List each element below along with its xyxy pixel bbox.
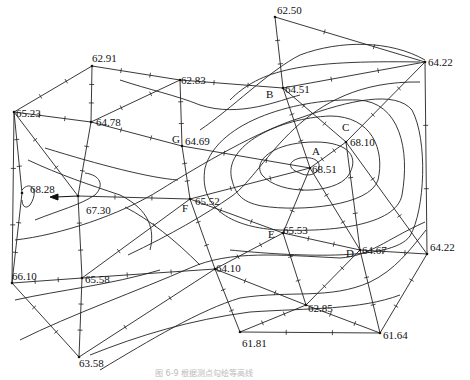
interpolation-tick bbox=[409, 279, 413, 282]
triangulation-edge bbox=[180, 80, 182, 146]
triangulation-edge bbox=[92, 66, 180, 80]
contour-line bbox=[125, 207, 200, 265]
spot-height-marker bbox=[274, 16, 277, 19]
spot-height-label: 63.58 bbox=[79, 357, 104, 369]
interpolation-tick bbox=[353, 213, 358, 214]
interpolation-tick bbox=[341, 221, 345, 224]
spot-height-label: 62.91 bbox=[92, 52, 117, 64]
spot-height-label: 64.78 bbox=[96, 116, 121, 128]
spot-height-label: 66.10 bbox=[12, 270, 37, 282]
interpolation-tick bbox=[117, 249, 120, 253]
triangulation-edge bbox=[79, 278, 82, 357]
spot-height-label: 64.69 bbox=[185, 135, 210, 147]
contour-line bbox=[230, 62, 420, 100]
spot-height-marker bbox=[81, 277, 84, 280]
spot-height-marker bbox=[239, 331, 242, 334]
interpolation-tick bbox=[371, 177, 375, 180]
point-letter-d: D bbox=[346, 247, 354, 259]
interpolation-tick bbox=[39, 94, 42, 98]
interpolation-tick bbox=[333, 149, 336, 153]
spot-height-label: 62.50 bbox=[277, 4, 302, 16]
spot-height-marker bbox=[11, 282, 14, 285]
spot-height-marker bbox=[426, 253, 429, 256]
triangulation-edge bbox=[91, 66, 92, 122]
interpolation-tick bbox=[394, 305, 398, 308]
triangulation-edge bbox=[275, 17, 283, 88]
triangulation-edge bbox=[215, 269, 306, 305]
interpolation-tick bbox=[371, 304, 376, 305]
interpolation-tick bbox=[64, 116, 65, 121]
interpolation-tick bbox=[321, 157, 324, 161]
triangulation-edge bbox=[78, 196, 190, 199]
contour-lines bbox=[15, 44, 426, 370]
spot-height-label: 64.22 bbox=[430, 241, 455, 253]
point-letter-g: G bbox=[172, 133, 180, 145]
point-letter-f: F bbox=[182, 202, 188, 214]
point-letter-b: B bbox=[266, 88, 273, 100]
spot-height-marker bbox=[282, 87, 285, 90]
point-letter-e: E bbox=[268, 228, 275, 240]
interpolation-tick bbox=[397, 214, 401, 217]
spot-height-marker bbox=[305, 304, 308, 307]
spot-height-marker bbox=[77, 195, 80, 198]
spot-height-label: 67.30 bbox=[86, 204, 111, 216]
interpolation-tick bbox=[169, 296, 172, 300]
point-letter-a: A bbox=[312, 145, 320, 157]
triangulation-edge bbox=[240, 332, 380, 333]
triangulation-edge bbox=[14, 66, 92, 112]
contour-line bbox=[15, 99, 423, 255]
interpolation-tick bbox=[324, 194, 328, 197]
spot-height-label: 64.10 bbox=[216, 262, 241, 274]
spot-height-marker bbox=[90, 121, 93, 124]
spot-height-marker bbox=[181, 145, 184, 148]
interpolation-tick bbox=[185, 181, 190, 182]
interpolation-tick bbox=[364, 277, 369, 278]
interpolation-tick bbox=[80, 170, 85, 171]
triangulation-edge bbox=[380, 254, 427, 333]
triangulation-edge bbox=[360, 250, 380, 333]
triangulation-edge bbox=[275, 17, 425, 62]
contour-map-figure: 62.5064.2262.9162.8364.5165.2364.7864.69… bbox=[0, 0, 470, 380]
interpolation-tick bbox=[182, 163, 187, 164]
spot-height-label: 65.52 bbox=[195, 195, 220, 207]
spot-height-label: 62.85 bbox=[308, 302, 333, 314]
arrow-shaft bbox=[56, 196, 78, 197]
interpolation-tick bbox=[378, 68, 379, 73]
triangulation-edges bbox=[10, 17, 429, 357]
triangulation-edge bbox=[240, 305, 306, 332]
interpolation-tick bbox=[331, 77, 332, 82]
spot-height-marker bbox=[309, 167, 312, 170]
interpolation-tick bbox=[308, 236, 309, 241]
contour-line bbox=[260, 142, 353, 190]
triangulation-edge bbox=[78, 122, 91, 196]
spot-height-label: 61.81 bbox=[242, 337, 267, 349]
triangulation-edge bbox=[12, 112, 14, 283]
figure-caption: 图 6-9 根据测点勾绘等高线 bbox=[155, 368, 253, 378]
interpolation-tick bbox=[224, 151, 225, 156]
triangulation-edge bbox=[14, 112, 22, 193]
spot-height-marker bbox=[345, 141, 348, 144]
interpolation-tick bbox=[84, 146, 89, 147]
interpolation-tick bbox=[278, 64, 283, 65]
point-letter-c: C bbox=[342, 121, 349, 133]
interpolation-tick bbox=[16, 222, 21, 223]
triangulation-edge bbox=[78, 196, 82, 278]
interpolation-tick bbox=[124, 325, 127, 329]
interpolation-tick bbox=[33, 138, 37, 141]
interpolation-tick bbox=[333, 242, 334, 247]
spot-height-label: 65.58 bbox=[85, 273, 110, 285]
triangulation-edge bbox=[215, 269, 240, 332]
interpolation-tick bbox=[150, 73, 151, 78]
spot-height-label: 64.22 bbox=[428, 56, 453, 68]
spot-height-label: 68.51 bbox=[312, 163, 337, 175]
spot-height-marker bbox=[91, 65, 94, 68]
spot-height-label: 68.10 bbox=[350, 136, 375, 148]
contour-map-svg: 62.5064.2262.9162.8364.5165.2364.7864.69… bbox=[0, 0, 470, 380]
spot-height-label: 68.28 bbox=[30, 183, 55, 195]
interpolation-tick bbox=[121, 68, 122, 73]
triangulation-edge bbox=[425, 62, 427, 254]
spot-height-label: 62.83 bbox=[181, 74, 206, 86]
spot-height-label: 64.67 bbox=[362, 244, 387, 256]
interpolation-tick bbox=[13, 252, 18, 253]
spot-height-marker bbox=[189, 198, 192, 201]
